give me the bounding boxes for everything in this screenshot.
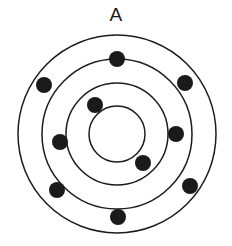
marker-bottom	[110, 209, 126, 225]
marker-upper-right	[177, 75, 193, 91]
ring-diagram	[0, 0, 232, 246]
ring-third	[66, 83, 168, 185]
marker-inner-lower-right	[135, 155, 151, 171]
marker-right	[168, 126, 184, 142]
markers-group	[36, 51, 198, 225]
figure-root: A	[0, 0, 232, 246]
marker-inner-upper-left	[87, 97, 103, 113]
marker-top	[109, 51, 125, 67]
ring-inner	[89, 106, 145, 162]
marker-lower-left	[49, 182, 65, 198]
marker-left	[52, 134, 68, 150]
marker-upper-left	[36, 77, 52, 93]
marker-lower-right	[182, 178, 198, 194]
